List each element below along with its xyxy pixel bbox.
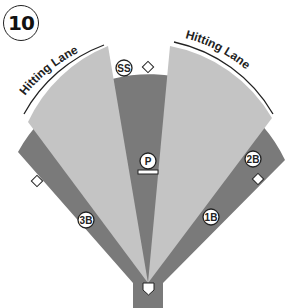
svg-text:P: P bbox=[145, 156, 152, 167]
second-base-left-marker bbox=[142, 61, 153, 72]
pitcher-rubber bbox=[138, 170, 158, 174]
position-3b: 3B bbox=[78, 212, 94, 228]
field-svg: Hitting Lane Hitting Lane SS P 3B 1B bbox=[0, 0, 286, 308]
svg-text:2B: 2B bbox=[247, 154, 260, 165]
svg-text:3B: 3B bbox=[80, 215, 93, 226]
baseball-field-diagram: 10 Hitting Lane Hitting Lane bbox=[0, 0, 286, 308]
position-2b: 2B bbox=[245, 151, 261, 167]
svg-text:SS: SS bbox=[117, 63, 131, 74]
position-ss: SS bbox=[116, 60, 132, 76]
position-p: P bbox=[140, 153, 156, 169]
svg-text:1B: 1B bbox=[205, 212, 218, 223]
position-1b: 1B bbox=[203, 209, 219, 225]
